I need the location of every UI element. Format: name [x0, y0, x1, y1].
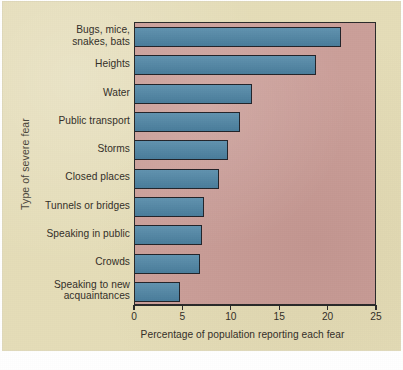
y-axis-title: Type of severe fear [16, 22, 34, 305]
category-label: Water [34, 87, 130, 99]
x-axis-line [134, 305, 376, 306]
x-axis-tick [182, 305, 183, 310]
figure-root: Type of severe fear Bugs, mice,snakes, b… [0, 0, 403, 370]
bar [135, 197, 204, 217]
category-label-line: Speaking to new [34, 279, 130, 291]
x-axis-tick [279, 305, 280, 310]
x-axis-tick-label: 15 [259, 311, 299, 322]
category-label-line: Public transport [34, 115, 130, 127]
category-label: Speaking to newacquaintances [34, 279, 130, 302]
category-label: Bugs, mice,snakes, bats [34, 24, 130, 47]
x-axis-title-text: Percentage of population reporting each … [59, 329, 345, 340]
category-label-line: Closed places [34, 171, 130, 183]
category-label: Storms [34, 143, 130, 155]
x-axis-tick [230, 305, 231, 310]
bar [135, 169, 219, 189]
x-axis-tick-label: 20 [308, 311, 348, 322]
category-label: Speaking in public [34, 228, 130, 240]
category-label-line: Speaking in public [34, 228, 130, 240]
category-label-line: Heights [34, 58, 130, 70]
x-axis-tick-label: 5 [162, 311, 202, 322]
category-label: Closed places [34, 171, 130, 183]
bar [135, 27, 341, 47]
bar [135, 140, 228, 160]
x-axis-tick-label: 0 [114, 311, 154, 322]
bar [135, 225, 202, 245]
y-axis-title-text: Type of severe fear [19, 118, 31, 210]
bar [135, 282, 180, 302]
x-axis-tick-label: 25 [356, 311, 396, 322]
category-label-line: Bugs, mice, [34, 24, 130, 36]
bar [135, 84, 252, 104]
x-axis-tick-label: 10 [211, 311, 251, 322]
plot-area [134, 22, 376, 305]
category-label-line: acquaintances [34, 290, 130, 302]
category-axis-labels: Bugs, mice,snakes, batsHeightsWaterPubli… [34, 22, 134, 305]
category-label-line: Water [34, 87, 130, 99]
x-axis-tick [133, 305, 134, 310]
category-label: Tunnels or bridges [34, 200, 130, 212]
category-label-line: Crowds [34, 256, 130, 268]
bar [135, 112, 240, 132]
x-axis-tick [375, 305, 376, 310]
x-axis-title: Percentage of population reporting each … [0, 329, 403, 340]
category-label: Public transport [34, 115, 130, 127]
category-label: Heights [34, 58, 130, 70]
category-label-line: Storms [34, 143, 130, 155]
bar [135, 254, 200, 274]
bar [135, 55, 316, 75]
category-label: Crowds [34, 256, 130, 268]
category-label-line: Tunnels or bridges [34, 200, 130, 212]
category-label-line: snakes, bats [34, 36, 130, 48]
x-axis-tick [327, 305, 328, 310]
